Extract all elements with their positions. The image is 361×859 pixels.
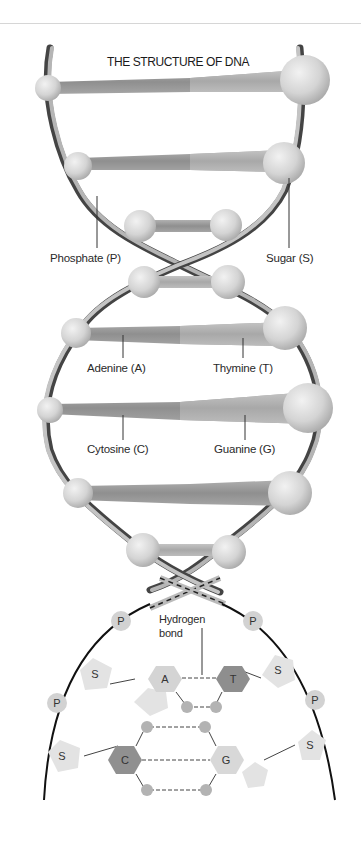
label-thymine: Thymine (T) xyxy=(213,362,273,374)
label-cytosine: Cytosine (C) xyxy=(87,443,149,455)
sugar-pentagons xyxy=(48,655,326,788)
phosphate-symbol-3: P xyxy=(53,697,60,709)
label-phosphate: Phosphate (P) xyxy=(50,252,121,264)
cytosine-symbol: C xyxy=(121,754,129,766)
label-adenine: Adenine (A) xyxy=(87,362,146,374)
guanine-symbol: G xyxy=(222,754,231,766)
label-hydrogen-bond-line2: bond xyxy=(159,627,183,639)
sugar-symbol-2: S xyxy=(274,664,281,676)
bond-atoms xyxy=(141,701,222,796)
thymine-symbol: T xyxy=(230,673,237,685)
sugar-symbol-4: S xyxy=(306,739,313,751)
phosphate-symbol-2: P xyxy=(249,615,256,627)
phosphate-symbol-1: P xyxy=(117,615,124,627)
diagram-title: THE STRUCTURE OF DNA xyxy=(107,55,249,69)
label-sugar: Sugar (S) xyxy=(266,252,313,264)
sugar-symbol-3: S xyxy=(58,750,65,762)
label-hydrogen-bond-line1: Hydrogen xyxy=(159,613,205,625)
label-guanine: Guanine (G) xyxy=(214,443,275,455)
phosphate-symbol-4: P xyxy=(311,694,318,706)
sugar-symbol-1: S xyxy=(91,668,98,680)
adenine-symbol: A xyxy=(161,673,168,685)
dna-helix-illustration xyxy=(0,0,361,859)
